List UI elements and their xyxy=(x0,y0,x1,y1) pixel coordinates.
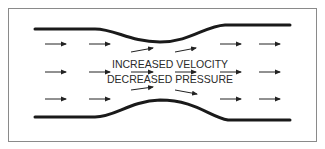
top-tube-wall xyxy=(35,25,290,42)
bottom-tube-wall xyxy=(35,100,290,120)
flow-arrow-icon xyxy=(175,48,196,52)
decreased-pressure-label: DECREASED PRESSURE xyxy=(107,73,233,85)
flow-arrow-icon xyxy=(175,90,197,94)
flow-arrow-icon xyxy=(131,48,153,52)
increased-velocity-label: INCREASED VELOCITY xyxy=(112,58,228,70)
flow-arrow-icon xyxy=(131,87,153,90)
flow-arrows xyxy=(45,44,280,99)
